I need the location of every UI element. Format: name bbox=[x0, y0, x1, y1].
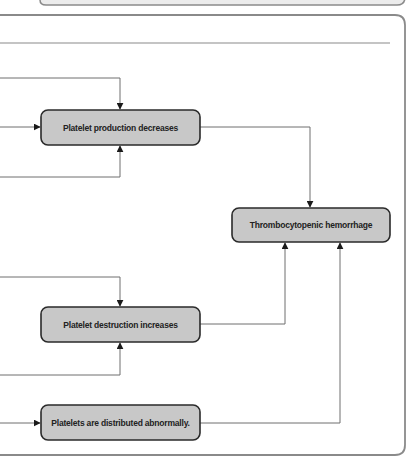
node-distribution-label: Platelets are distributed abnormally. bbox=[51, 418, 189, 428]
node-production: Platelet production decreases bbox=[41, 110, 200, 145]
edge-destruction-to-hemorrhage bbox=[200, 243, 285, 324]
node-production-label: Platelet production decreases bbox=[63, 123, 179, 133]
node-destruction-label: Platelet destruction increases bbox=[63, 320, 178, 330]
connector-destruction-bottom bbox=[0, 343, 120, 375]
node-destruction: Platelet destruction increases bbox=[41, 307, 200, 342]
edge-production-to-hemorrhage bbox=[200, 127, 310, 207]
connector-destruction-top bbox=[0, 277, 120, 306]
node-hemorrhage: Thrombocytopenic hemorrhage bbox=[232, 208, 390, 242]
connector-production-bottom bbox=[0, 146, 120, 177]
node-distribution: Platelets are distributed abnormally. bbox=[41, 405, 200, 440]
edge-distribution-to-hemorrhage bbox=[200, 243, 340, 423]
connector-production-top bbox=[0, 78, 120, 109]
flowchart-canvas: Platelet production decreases Thrombocyt… bbox=[0, 0, 411, 462]
node-hemorrhage-label: Thrombocytopenic hemorrhage bbox=[250, 220, 373, 230]
upper-panel-border bbox=[40, 0, 405, 5]
